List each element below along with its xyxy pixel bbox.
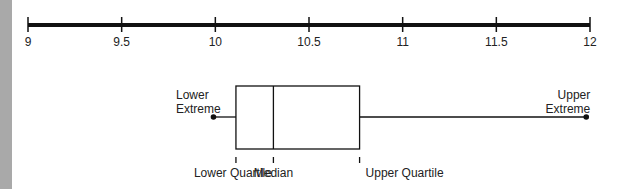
tick-label: 9.5 xyxy=(113,35,130,49)
median-label: Median xyxy=(254,166,293,180)
upper-extreme-label: Extreme xyxy=(546,102,591,116)
tick-label: 10 xyxy=(209,35,223,49)
box-and-whisker xyxy=(211,86,589,163)
upper-extreme-label: Upper xyxy=(558,88,591,102)
lower-extreme-label: Extreme xyxy=(176,102,221,116)
tick-label: 9 xyxy=(25,35,32,49)
upper-quartile-label: Upper Quartile xyxy=(366,166,444,180)
box-plot-diagram: 99.51010.51111.512 LowerExtremeUpperExtr… xyxy=(0,0,618,189)
tick-label: 10.5 xyxy=(297,35,321,49)
annotation-labels: LowerExtremeUpperExtremeLower QuartileMe… xyxy=(176,88,591,180)
interquartile-box xyxy=(236,86,360,149)
tick-label: 11 xyxy=(396,35,409,49)
lower-extreme-label: Lower xyxy=(176,88,209,102)
number-line-axis: 99.51010.51111.512 xyxy=(25,17,597,49)
tick-label: 11.5 xyxy=(485,35,508,49)
tick-label: 12 xyxy=(583,35,597,49)
